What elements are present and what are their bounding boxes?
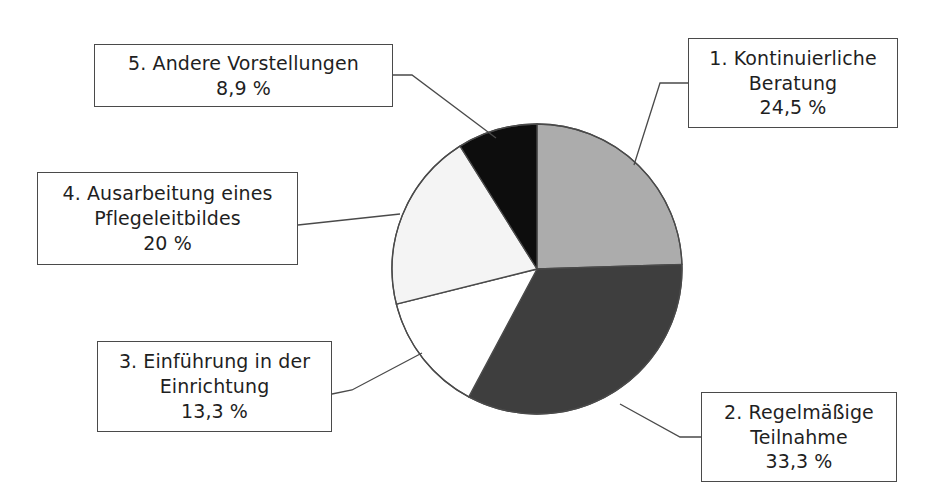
callout-4-percent: 20 %	[143, 231, 192, 256]
callout-5-percent: 8,9 %	[216, 76, 271, 101]
callout-slice-1[interactable]: 1. Kontinuierliche Beratung 24,5 %	[688, 38, 898, 128]
callout-2-line-1: 2. Regelmäßige	[724, 400, 874, 425]
callout-2-line-2: Teilnahme	[750, 425, 847, 450]
callout-slice-3[interactable]: 3. Einführung in der Einrichtung 13,3 %	[97, 341, 332, 432]
leader-line-2	[620, 404, 701, 437]
callout-3-line-2: Einrichtung	[160, 374, 270, 399]
callout-4-line-2: Pflegeleitbildes	[94, 206, 240, 231]
callout-slice-5[interactable]: 5. Andere Vorstellungen 8,9 %	[94, 44, 393, 107]
callout-3-line-1: 3. Einführung in der	[119, 349, 310, 374]
callout-1-line-2: Beratung	[749, 71, 838, 96]
callout-5-line-1: 5. Andere Vorstellungen	[128, 51, 359, 76]
callout-3-percent: 13,3 %	[181, 399, 248, 424]
callout-slice-2[interactable]: 2. Regelmäßige Teilnahme 33,3 %	[701, 392, 897, 482]
callout-2-percent: 33,3 %	[766, 449, 833, 474]
callout-4-line-1: 4. Ausarbeitung eines	[63, 181, 273, 206]
callout-1-percent: 24,5 %	[760, 95, 827, 120]
leader-line-3	[332, 353, 422, 394]
pie-chart-figure: 1. Kontinuierliche Beratung 24,5 % 2. Re…	[0, 0, 945, 502]
callout-1-line-1: 1. Kontinuierliche	[709, 46, 876, 71]
leader-line-1	[634, 83, 688, 165]
leader-line-4	[298, 214, 400, 225]
leader-line-5	[393, 75, 496, 138]
callout-slice-4[interactable]: 4. Ausarbeitung eines Pflegeleitbildes 2…	[37, 172, 298, 265]
